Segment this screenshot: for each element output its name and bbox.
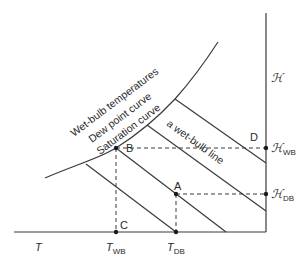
point-a-label: A — [174, 180, 182, 192]
point-b-label: B — [126, 142, 133, 154]
h-db-label: ℋDB — [271, 187, 294, 203]
h-wb-label: ℋWB — [271, 141, 296, 157]
point-c-label: C — [120, 219, 128, 231]
h-db-dot — [264, 192, 268, 196]
t-wb-label: TWB — [106, 241, 126, 256]
wet-bulb-line-2 — [116, 148, 226, 232]
x-axis-label-t: T — [35, 241, 43, 253]
h-wb-dot — [264, 146, 268, 150]
wet-bulb-line-label: a wet-bulb line — [165, 117, 227, 167]
psychrometric-diagram: Wet-bulb temperatures Dew point curve Sa… — [0, 0, 305, 260]
y-axis-label-h: ℋ — [271, 71, 285, 85]
point-d-label: D — [250, 131, 258, 143]
wet-bulb-line-3 — [147, 125, 266, 211]
point-a-dot — [174, 192, 178, 196]
wet-bulb-line-1 — [86, 164, 176, 232]
t-db-dot — [174, 230, 178, 234]
t-db-label: TDB — [167, 241, 185, 256]
point-c-dot — [114, 230, 118, 234]
